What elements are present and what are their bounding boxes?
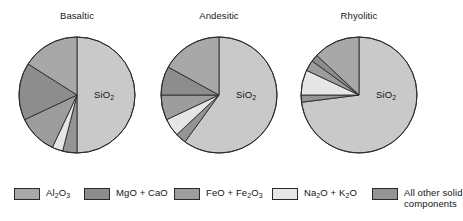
pie-chart-andesitic <box>161 37 277 153</box>
legend-item-mgo-cao: MgO + CaO <box>84 187 168 200</box>
legend-label-mgo-cao: MgO + CaO <box>116 187 168 198</box>
legend-item-other: All other solid components <box>372 187 463 209</box>
sio2-label-andesitic: SiO2 <box>236 89 256 101</box>
pie-svg-andesitic <box>161 37 277 153</box>
chart-title-rhyolitic: Rhyolitic <box>304 10 414 21</box>
legend-label-na2o-k2o: Na2O + K2O <box>304 187 357 201</box>
legend-swatch-other <box>372 188 398 200</box>
pie-slices-basaltic <box>19 37 135 153</box>
legend-swatch-mgo-cao <box>84 188 110 200</box>
pie-chart-basaltic <box>19 37 135 153</box>
legend-item-al2o3: Al2O3 <box>14 187 70 201</box>
legend-swatch-na2o-k2o <box>272 188 298 200</box>
legend-label-other: All other solid components <box>404 187 463 209</box>
pie-slices-rhyolitic <box>301 37 417 153</box>
sio2-label-rhyolitic: SiO2 <box>376 89 396 101</box>
legend: Al2O3 MgO + CaO FeO + Fe2O3 Na2O + K2O A… <box>0 184 450 221</box>
legend-item-feo-fe2o3: FeO + Fe2O3 <box>174 187 263 201</box>
legend-item-na2o-k2o: Na2O + K2O <box>272 187 357 201</box>
legend-label-feo-fe2o3: FeO + Fe2O3 <box>206 187 263 201</box>
legend-swatch-al2o3 <box>14 188 40 200</box>
legend-label-other-line1: All other solid <box>404 187 463 198</box>
legend-label-al2o3: Al2O3 <box>46 187 70 201</box>
legend-label-other-line2: components <box>404 198 463 209</box>
chart-title-basaltic: Basaltic <box>22 10 132 21</box>
legend-swatch-feo-fe2o3 <box>174 188 200 200</box>
pie-slices-andesitic <box>161 37 277 153</box>
pie-svg-rhyolitic <box>301 37 417 153</box>
sio2-label-basaltic: SiO2 <box>94 89 114 101</box>
pie-svg-basaltic <box>19 37 135 153</box>
chart-title-andesitic: Andesitic <box>164 10 274 21</box>
pie-chart-rhyolitic <box>301 37 417 153</box>
